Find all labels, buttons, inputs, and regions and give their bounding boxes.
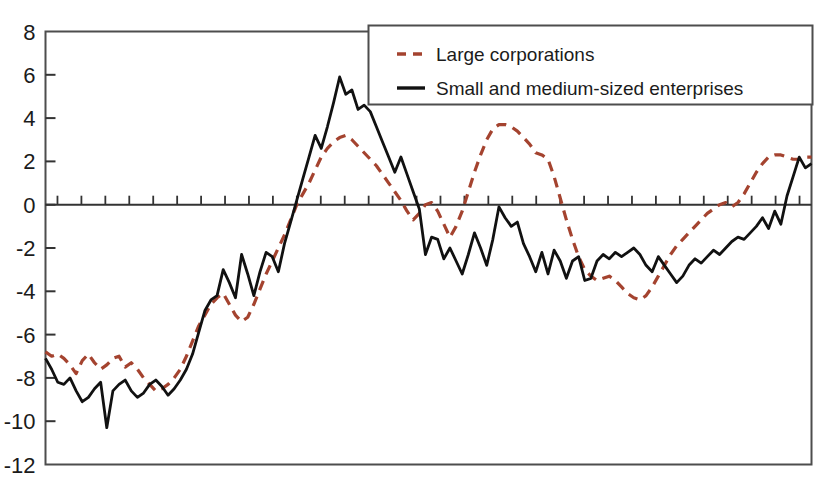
legend-label-smes: Small and medium-sized enterprises [436, 78, 743, 99]
series-line-large-corporations [46, 125, 812, 391]
y-axis-tick-label: 8 [23, 20, 35, 45]
y-axis-tick-label: 0 [23, 193, 35, 218]
y-axis-tick-label: -6 [16, 323, 36, 348]
y-axis-tick-labels: 86420-2-4-6-8-10-12 [4, 20, 36, 478]
chart-figure: 86420-2-4-6-8-10-12 Large corporations S… [0, 0, 823, 484]
line-chart: 86420-2-4-6-8-10-12 Large corporations S… [0, 0, 823, 484]
y-axis-tick-label: -12 [4, 453, 36, 478]
y-axis-tick-label: -4 [16, 279, 36, 304]
series-line-smes [46, 77, 812, 428]
legend-entry-smes: Small and medium-sized enterprises [397, 78, 743, 99]
chart-legend: Large corporations Small and medium-size… [369, 26, 813, 105]
y-axis-tick-label: -10 [4, 409, 36, 434]
legend-label-large-corporations: Large corporations [436, 44, 594, 65]
data-series-group [46, 77, 812, 428]
y-axis-tick-label: -2 [16, 236, 36, 261]
y-axis-tick-label: 4 [23, 106, 35, 131]
y-axis-tick-label: 2 [23, 149, 35, 174]
y-axis-tick-label: 6 [23, 63, 35, 88]
y-axis-tick-label: -8 [16, 366, 36, 391]
